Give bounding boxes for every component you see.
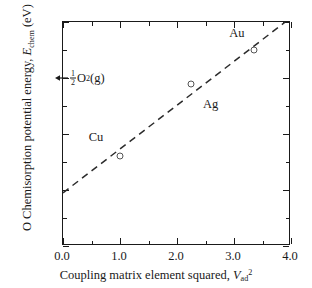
y-axis-title: O Chemisorption potential energy, Echem … xyxy=(20,0,35,238)
data-point-label-cu: Cu xyxy=(89,130,104,145)
data-point-ag xyxy=(188,80,195,87)
x-axis-title-superscript: 2 xyxy=(248,268,252,277)
left-arrow-icon xyxy=(55,74,69,83)
x-axis-tick-label: 4.0 xyxy=(282,250,298,263)
x-axis-tick-label: 2.0 xyxy=(168,250,184,263)
one-half-fraction: 1 2 xyxy=(70,70,76,87)
x-axis-major-tick-top xyxy=(291,22,292,28)
data-point-au xyxy=(250,47,257,54)
fraction-denominator: 2 xyxy=(70,79,76,87)
x-axis-tick-label: 3.0 xyxy=(225,250,241,263)
data-point-label-au: Au xyxy=(229,26,244,41)
x-axis-title: Coupling matrix element squared, Vad2 xyxy=(0,268,312,283)
data-point-label-ag: Ag xyxy=(203,96,218,111)
y-axis-title-subscript: chem xyxy=(27,30,36,48)
y-axis-major-tick-right xyxy=(283,246,289,247)
x-axis-title-text: Coupling matrix element squared, xyxy=(60,268,233,282)
x-axis-major-tick xyxy=(291,238,292,244)
y-axis-title-units: (eV) xyxy=(20,4,34,30)
x-axis-tick-label: 1.0 xyxy=(111,250,127,263)
o2-element-symbol: O xyxy=(77,71,86,86)
o2-phase-label: (g) xyxy=(90,71,105,86)
y-axis-title-text: O Chemisorption potential energy, xyxy=(20,55,34,231)
chemisorption-scatter-figure: −2.0−3.0−4.0−5.0−6.0 0.01.02.03.04.0 O C… xyxy=(0,0,312,288)
y-axis-major-tick xyxy=(63,246,69,247)
y-axis-title-symbol: E xyxy=(20,48,34,56)
x-axis-tick-label: 0.0 xyxy=(54,250,70,263)
plot-frame: CuAgAu 1 2 O2(g) xyxy=(62,21,290,245)
x-axis-title-symbol: V xyxy=(233,268,241,282)
data-point-cu xyxy=(117,153,124,160)
half-o2-gas-annotation: 1 2 O2(g) xyxy=(55,70,105,87)
